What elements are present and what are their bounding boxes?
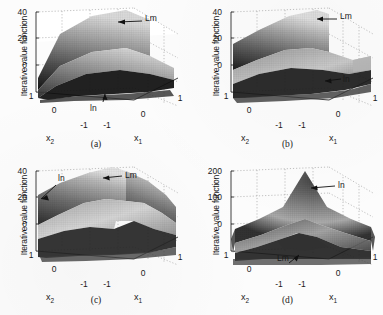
plot-area-c: 40 20 0 1 0 -1 -1 0 1 x2 x1 ln Lm (30, 167, 182, 279)
y-tick-c-2: 0 (22, 219, 27, 229)
x1-tick-c-0: -1 (103, 279, 111, 289)
annotation-ln-b: ln (343, 74, 350, 84)
y-tick-a-2: 0 (22, 60, 27, 70)
x1-tick-b-2: 1 (373, 93, 378, 103)
x2-tick-b-1: 0 (247, 105, 252, 115)
panel-caption-d: (d) (192, 295, 383, 305)
x1-tick-a-1: 0 (141, 109, 146, 119)
y-tick-a-1: 20 (18, 33, 27, 43)
panel-caption-b: (b) (192, 139, 383, 149)
y-tick-a-0: 40 (18, 7, 27, 17)
y-tick-d-2: 0 (217, 219, 222, 229)
y-tick-d-1: 100 (208, 192, 222, 202)
surface-plot-a (30, 8, 182, 120)
panel-caption-a: (a) (0, 139, 192, 149)
figure-page: Iterative value function (0, 0, 383, 315)
panel-grid: Iterative value function (0, 0, 383, 315)
y-tick-c-1: 20 (18, 192, 27, 202)
y-tick-d-0: 200 (208, 166, 222, 176)
x1-tick-a-0: -1 (103, 120, 111, 130)
annotation-ln-c: ln (58, 173, 65, 183)
x1-tick-c-1: 0 (141, 268, 146, 278)
panel-caption-c: (c) (0, 295, 192, 305)
annotation-lm-c: Lm (125, 170, 137, 180)
x1-tick-d-2: 1 (373, 252, 378, 262)
annotation-lm-d: Lm (277, 253, 289, 263)
x1-tick-c-2: 1 (178, 252, 183, 262)
plot-area-a: 40 20 0 1 0 -1 -1 0 1 x2 x1 Lm (30, 8, 182, 120)
annotation-lm-a: Lm (145, 13, 157, 23)
panel-c: Iterative value function (0, 157, 192, 315)
x2-tick-d-1: 0 (247, 264, 252, 274)
x2-tick-d-0: 1 (224, 250, 229, 260)
annotation-lm-b: Lm (340, 11, 352, 21)
surface-plot-d (225, 167, 377, 279)
x1-tick-d-1: 0 (336, 268, 341, 278)
x2-tick-a-1: 0 (52, 105, 57, 115)
y-tick-b-0: 40 (213, 7, 222, 17)
annotation-ln-d: ln (338, 180, 345, 190)
x1-tick-b-1: 0 (336, 109, 341, 119)
y-axis-title-c: Iterative value function (19, 163, 29, 267)
x1-tick-a-2: 1 (178, 93, 183, 103)
surface-plot-c (30, 167, 182, 279)
x1-tick-b-0: -1 (298, 120, 306, 130)
y-axis-title-a: Iterative value function (19, 4, 29, 108)
plot-area-b: 40 20 0 1 0 -1 -1 0 1 x2 x1 Lm ln (225, 8, 377, 120)
plot-area-d: 200 100 0 1 0 -1 -1 0 1 x2 x1 ln Lm (225, 167, 377, 279)
x2-tick-a-0: 1 (29, 91, 34, 101)
x2-tick-d-2: -1 (275, 279, 283, 289)
x2-tick-b-0: 1 (224, 91, 229, 101)
annotation-ln-a: ln (90, 103, 97, 113)
panel-d: Iterative value function (192, 157, 383, 315)
surface-plot-b (225, 8, 377, 120)
x2-tick-c-2: -1 (80, 279, 88, 289)
y-axis-title-d: Iterative value function (211, 163, 221, 267)
x1-tick-d-0: -1 (298, 279, 306, 289)
y-tick-c-0: 40 (18, 166, 27, 176)
y-axis-title-b: Iterative value function (211, 4, 221, 108)
y-tick-b-1: 20 (213, 33, 222, 43)
panel-a: Iterative value function (0, 0, 192, 157)
x2-tick-c-0: 1 (29, 250, 34, 260)
x2-tick-c-1: 0 (52, 264, 57, 274)
scan-bleed-text (0, 307, 383, 315)
x2-tick-b-2: -1 (275, 120, 283, 130)
x2-tick-a-2: -1 (80, 120, 88, 130)
panel-b: Iterative value function (192, 0, 383, 157)
y-tick-b-2: 0 (217, 60, 222, 70)
